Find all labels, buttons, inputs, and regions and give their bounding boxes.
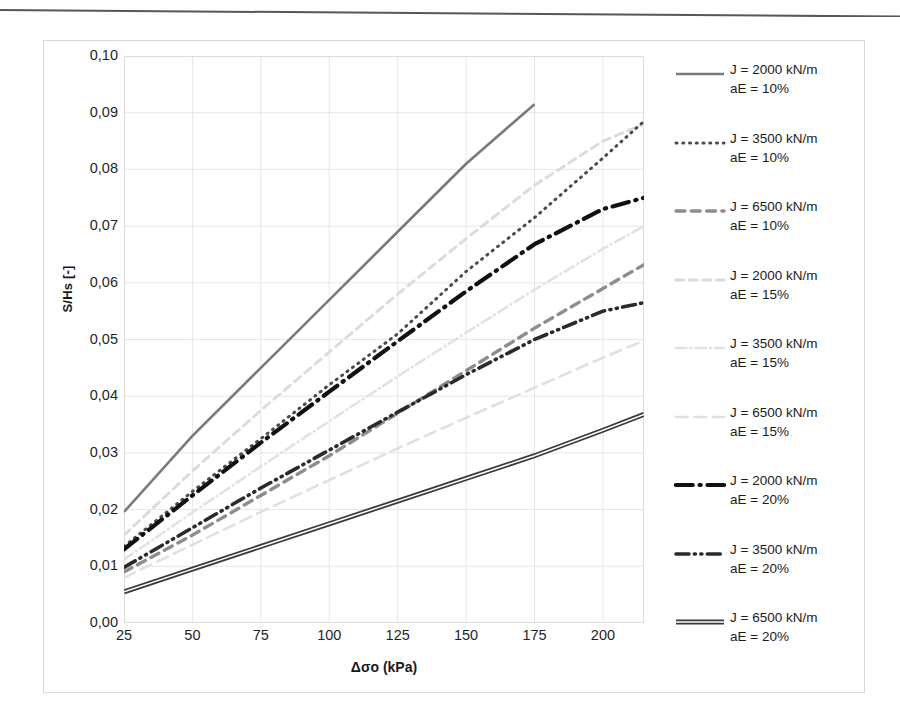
- legend-item[interactable]: J = 3500 kN/maE = 15%: [674, 337, 859, 383]
- y-tick-label: 0,09: [72, 105, 118, 120]
- legend-label-line2: aE = 20%: [730, 490, 858, 509]
- x-tick-label: 100: [299, 627, 359, 643]
- y-tick-label: 0,05: [72, 332, 118, 347]
- legend-item-label: J = 6500 kN/maE = 15%: [730, 403, 858, 441]
- legend-item-label: J = 6500 kN/maE = 10%: [730, 197, 858, 235]
- legend-label-line1: J = 2000 kN/m: [730, 471, 858, 490]
- legend-label-line2: aE = 20%: [730, 627, 858, 646]
- legend-item-label: J = 6500 kN/maE = 20%: [730, 608, 858, 646]
- gridlines: [124, 56, 644, 623]
- legend-label-line1: J = 3500 kN/m: [730, 334, 858, 353]
- legend-item[interactable]: J = 3500 kN/maE = 20%: [674, 543, 859, 589]
- legend-label-line1: J = 6500 kN/m: [730, 403, 858, 422]
- x-tick-label: 75: [231, 627, 291, 643]
- series-line: [124, 124, 644, 535]
- plot-area: [124, 56, 644, 623]
- y-tick-label: 0,08: [72, 161, 118, 176]
- legend-item[interactable]: J = 6500 kN/maE = 10%: [674, 200, 859, 246]
- legend-label-line2: aE = 15%: [730, 353, 858, 372]
- legend-label-line1: J = 2000 kN/m: [730, 266, 858, 285]
- x-tick-label: 25: [94, 627, 154, 643]
- chart-legend: J = 2000 kN/maE = 10%J = 3500 kN/maE = 1…: [674, 63, 859, 678]
- legend-key-j3500-ae20: [674, 547, 726, 561]
- y-axis-tick-labels: 0,100,090,080,070,060,050,040,030,020,01…: [62, 56, 118, 623]
- legend-label-line2: aE = 10%: [730, 79, 858, 98]
- legend-key-j2000-ae10: [674, 67, 726, 81]
- legend-label-line2: aE = 20%: [730, 559, 858, 578]
- legend-key-j6500-ae20: [674, 615, 726, 629]
- legend-label-line1: J = 2000 kN/m: [730, 60, 858, 79]
- legend-key-j3500-ae10: [674, 136, 726, 150]
- legend-item-label: J = 2000 kN/maE = 10%: [730, 60, 858, 98]
- legend-label-line2: aE = 15%: [730, 285, 858, 304]
- legend-item-label: J = 2000 kN/maE = 20%: [730, 471, 858, 509]
- legend-item-label: J = 2000 kN/maE = 15%: [730, 266, 858, 304]
- y-tick-label: 0,10: [72, 48, 118, 63]
- legend-key-j2000-ae15: [674, 273, 726, 287]
- plot-svg: [124, 56, 644, 623]
- legend-key-j3500-ae15: [674, 341, 726, 355]
- x-tick-label: 175: [505, 627, 565, 643]
- legend-item[interactable]: J = 6500 kN/maE = 15%: [674, 406, 859, 452]
- y-tick-label: 0,01: [72, 558, 118, 573]
- y-tick-label: 0,07: [72, 218, 118, 233]
- legend-label-line2: aE = 15%: [730, 422, 858, 441]
- x-tick-label: 150: [436, 627, 496, 643]
- x-tick-label: 125: [368, 627, 428, 643]
- legend-label-line1: J = 3500 kN/m: [730, 540, 858, 559]
- x-tick-label: 50: [162, 627, 222, 643]
- x-tick-label: 200: [573, 627, 633, 643]
- chart-frame: S/Hs [-] 0,100,090,080,070,060,050,040,0…: [43, 40, 865, 693]
- legend-key-j2000-ae20: [674, 478, 726, 492]
- x-axis-tick-labels: 255075100125150175200: [124, 627, 644, 649]
- y-tick-label: 0,02: [72, 502, 118, 517]
- legend-key-j6500-ae15: [674, 410, 726, 424]
- legend-label-line1: J = 3500 kN/m: [730, 129, 858, 148]
- series-line: [124, 414, 644, 591]
- legend-key-j6500-ae10: [674, 204, 726, 218]
- legend-item-label: J = 3500 kN/maE = 20%: [730, 540, 858, 578]
- legend-item[interactable]: J = 2000 kN/maE = 10%: [674, 63, 859, 109]
- legend-item-label: J = 3500 kN/maE = 10%: [730, 129, 858, 167]
- legend-item[interactable]: J = 2000 kN/maE = 15%: [674, 269, 859, 315]
- legend-label-line2: aE = 10%: [730, 148, 858, 167]
- legend-label-line2: aE = 10%: [730, 216, 858, 235]
- y-tick-label: 0,03: [72, 445, 118, 460]
- legend-item[interactable]: J = 2000 kN/maE = 20%: [674, 474, 859, 520]
- scan-artifact-line: [0, 9, 900, 17]
- x-axis-title: Δσo (kPa): [124, 659, 644, 675]
- legend-label-line1: J = 6500 kN/m: [730, 608, 858, 627]
- y-tick-label: 0,06: [72, 275, 118, 290]
- series-line: [124, 341, 644, 578]
- legend-item[interactable]: J = 3500 kN/maE = 10%: [674, 132, 859, 178]
- legend-label-line1: J = 6500 kN/m: [730, 197, 858, 216]
- y-tick-label: 0,04: [72, 388, 118, 403]
- legend-item[interactable]: J = 6500 kN/maE = 20%: [674, 611, 859, 657]
- series-line: [124, 121, 644, 546]
- legend-item-label: J = 3500 kN/maE = 15%: [730, 334, 858, 372]
